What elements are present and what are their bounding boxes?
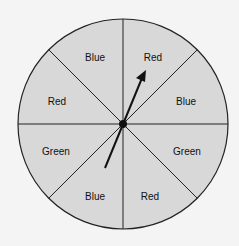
- section-label-left-lower: Green: [42, 146, 70, 157]
- spinner-diagram: Red Blue Green Red Blue Green Red Blue: [0, 0, 239, 246]
- section-label-bottom-right: Red: [141, 191, 159, 202]
- section-label-top-right: Red: [144, 52, 162, 63]
- spinner-hub: [119, 120, 127, 128]
- section-label-right-lower: Green: [173, 146, 201, 157]
- section-label-left-upper: Red: [48, 96, 66, 107]
- section-label-right-upper: Blue: [176, 96, 196, 107]
- section-label-bottom-left: Blue: [85, 191, 105, 202]
- section-label-top-left: Blue: [85, 52, 105, 63]
- spinner-svg: Red Blue Green Red Blue Green Red Blue: [0, 0, 239, 246]
